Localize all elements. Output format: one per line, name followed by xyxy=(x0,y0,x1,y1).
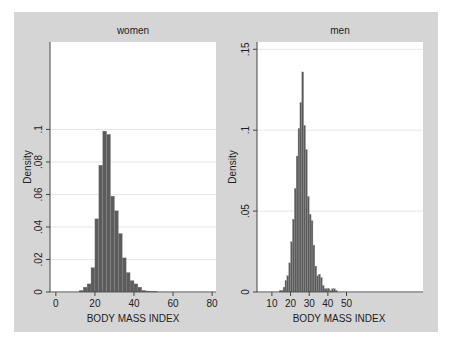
histogram-bar xyxy=(292,219,294,292)
histogram-bar xyxy=(319,274,321,292)
histogram-bar xyxy=(138,287,142,292)
histogram-bar xyxy=(304,125,306,292)
women-x-axis-label: BODY MASS INDEX xyxy=(87,313,180,324)
histogram-bar xyxy=(287,276,289,292)
women-y-axis-label: Density xyxy=(22,150,33,183)
histogram-bar xyxy=(126,272,130,292)
histogram-bar xyxy=(87,284,91,292)
histogram-bar xyxy=(103,131,107,292)
histogram-bar xyxy=(311,221,313,292)
histogram-bar xyxy=(99,165,103,292)
histogram-bar xyxy=(91,268,95,292)
histogram-bar xyxy=(291,242,293,292)
x-tick-label: 50 xyxy=(341,298,353,309)
histogram-bar xyxy=(107,134,111,292)
x-tick-label: 80 xyxy=(207,298,219,309)
x-tick-label: 20 xyxy=(285,298,297,309)
y-tick-label: .02 xyxy=(33,252,44,266)
y-tick-label: 0 xyxy=(240,289,251,295)
histogram-bar xyxy=(313,245,315,292)
men-histogram: 0.05.1.151020304050 xyxy=(240,42,423,309)
histogram-bar xyxy=(305,150,307,292)
histogram-bar xyxy=(130,281,134,292)
x-tick-label: 40 xyxy=(322,298,334,309)
histogram-bar xyxy=(122,258,126,292)
y-tick-label: .04 xyxy=(33,220,44,234)
histogram-bar xyxy=(83,287,87,292)
men-y-axis-label: Density xyxy=(227,150,238,183)
women-histogram: 0.02.04.06.08.1020406080 xyxy=(33,42,218,309)
y-tick-label: .06 xyxy=(33,187,44,201)
histogram-bar xyxy=(111,196,115,292)
histogram-bar xyxy=(283,287,285,292)
histogram-bar xyxy=(285,281,287,292)
histogram-bar xyxy=(289,263,291,292)
histogram-bar xyxy=(296,156,298,292)
histogram-bar xyxy=(309,214,311,292)
x-tick-label: 0 xyxy=(53,298,59,309)
y-tick-label: .1 xyxy=(33,125,44,134)
histogram-bar xyxy=(95,219,99,292)
histogram-bar xyxy=(302,72,304,292)
histogram-chart: 0.02.04.06.08.1020406080 0.05.1.15102030… xyxy=(0,0,449,342)
x-tick-label: 20 xyxy=(89,298,101,309)
histogram-bar xyxy=(307,197,309,292)
y-tick-label: 0 xyxy=(33,289,44,295)
histogram-bar xyxy=(298,129,300,292)
x-tick-label: 10 xyxy=(266,298,278,309)
histogram-bar xyxy=(322,286,324,292)
histogram-bar xyxy=(114,211,118,292)
histogram-bar xyxy=(300,103,302,292)
x-tick-label: 60 xyxy=(167,298,179,309)
histogram-bar xyxy=(315,266,317,292)
men-x-axis-label: BODY MASS INDEX xyxy=(293,313,386,324)
x-tick-label: 40 xyxy=(128,298,140,309)
x-tick-label: 30 xyxy=(304,298,316,309)
y-tick-label: .15 xyxy=(240,42,251,56)
histogram-bar xyxy=(317,276,319,292)
histogram-bar xyxy=(134,284,138,292)
histogram-bar xyxy=(320,277,322,292)
y-tick-label: .08 xyxy=(33,155,44,169)
histogram-bar xyxy=(118,233,122,292)
y-tick-label: .1 xyxy=(240,126,251,135)
histogram-bar xyxy=(294,188,296,292)
y-tick-label: .05 xyxy=(240,204,251,218)
